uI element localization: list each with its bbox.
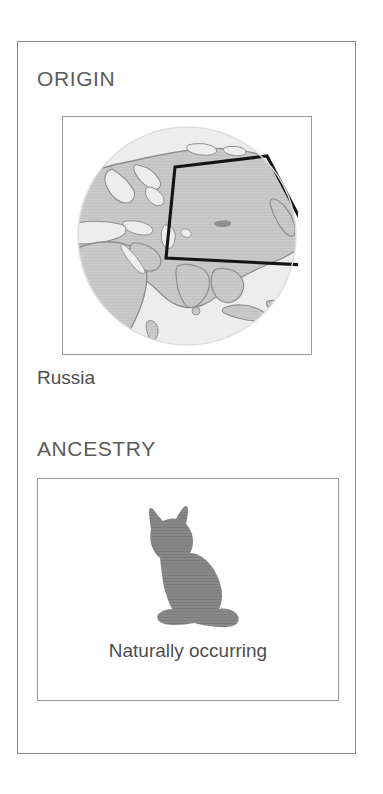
- ancestry-section-heading: ANCESTRY: [37, 438, 156, 459]
- globe-icon: [76, 125, 298, 347]
- breed-info-card: ORIGIN: [17, 41, 356, 754]
- cat-silhouette-svg: [132, 503, 244, 631]
- page-root: ORIGIN: [0, 0, 383, 794]
- cat-silhouette-icon: [132, 503, 244, 631]
- ancestry-caption: Naturally occurring: [38, 641, 338, 660]
- globe-svg: [76, 125, 298, 347]
- origin-caption: Russia: [37, 368, 95, 387]
- cat-body-shape: [149, 506, 239, 627]
- ancestry-frame: Naturally occurring: [37, 478, 339, 701]
- origin-section-heading: ORIGIN: [37, 68, 115, 89]
- origin-map-frame: [62, 116, 312, 355]
